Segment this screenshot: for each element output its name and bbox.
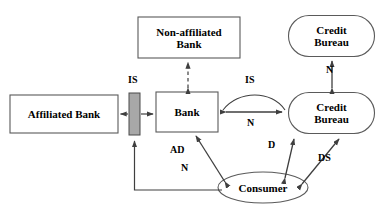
node-consumer: [218, 172, 308, 203]
node-credit-bureau-main: [289, 93, 375, 134]
edge-bank-creditbureau-is-arc: [223, 95, 285, 110]
edge-creditbureau-consumer-d: [285, 139, 294, 178]
node-bank: [156, 92, 218, 132]
node-credit-bureau-top: [289, 16, 375, 57]
edge-creditbureau-consumer-ds: [302, 139, 339, 184]
diagram-graphics: [0, 0, 381, 214]
edge-consumer-is-feedback-edge: [135, 141, 223, 190]
node-non-affiliated-bank: [138, 17, 240, 58]
edge-bank-consumer-edge: [196, 136, 225, 182]
diagram-canvas: Non-affiliated Bank Credit Bureau Affili…: [0, 0, 381, 214]
node-is-bar: [129, 93, 140, 135]
node-affiliated-bank: [10, 95, 118, 133]
